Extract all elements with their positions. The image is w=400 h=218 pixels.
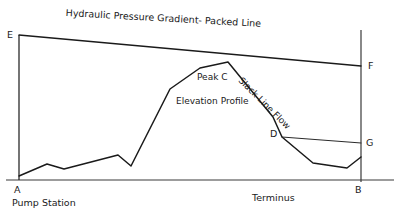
diagram-lines (6, 30, 394, 182)
label-point-e: E (7, 30, 13, 40)
diagram-canvas: Hydraulic Pressure Gradient- Packed Line… (0, 0, 400, 218)
label-point-d: D (270, 129, 277, 139)
caption-terminus: Terminus (252, 193, 295, 203)
label-point-a: A (14, 185, 21, 195)
elevation-profile-line (19, 62, 361, 176)
label-peak-c: Peak C (197, 73, 228, 82)
hydraulic-pressure-gradient-line (19, 35, 361, 66)
slack-line-gradient-dg (282, 137, 361, 143)
caption-pump-station: Pump Station (12, 198, 76, 208)
label-point-g: G (366, 138, 373, 148)
hydraulic-gradient-diagram (0, 0, 400, 218)
label-point-f: F (368, 61, 373, 71)
label-point-b: B (355, 185, 362, 195)
label-elevation-profile: Elevation Profile (176, 97, 249, 106)
